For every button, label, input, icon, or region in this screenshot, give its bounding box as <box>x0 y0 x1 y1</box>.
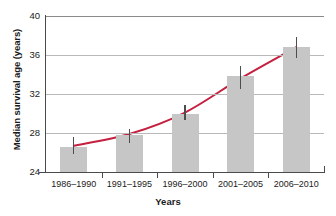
x-tick-label: 1996–2000 <box>154 179 216 189</box>
x-tick-mark <box>102 172 103 178</box>
y-tick-label-24: 24 <box>14 166 40 177</box>
x-tick-mark <box>213 172 214 178</box>
chart-container: Median survival age (years) 2428323640 Y… <box>0 0 336 216</box>
x-axis-left-cap <box>39 172 46 173</box>
x-axis-right-cap <box>324 166 325 173</box>
y-tick-label-28: 28 <box>14 127 40 138</box>
error-bar <box>73 137 74 155</box>
y-tick-label-40: 40 <box>14 10 40 21</box>
x-tick-label: 2001–2005 <box>210 179 272 189</box>
error-bar <box>129 129 130 143</box>
error-bar <box>240 66 241 89</box>
x-tick-label: 2006–2010 <box>265 179 327 189</box>
x-tick-mark <box>157 172 158 178</box>
y-tick-label-36: 36 <box>14 49 40 60</box>
x-tick-mark <box>268 172 269 178</box>
error-bar <box>184 105 185 121</box>
x-axis-title: Years <box>0 196 336 207</box>
bar <box>283 47 310 172</box>
x-tick-label: 1986–1990 <box>43 179 105 189</box>
bar <box>172 114 199 173</box>
x-tick-label: 1991–1995 <box>98 179 160 189</box>
x-axis-line <box>45 172 325 173</box>
y-tick-label-32: 32 <box>14 88 40 99</box>
error-bar <box>296 37 297 57</box>
gridline-40 <box>46 16 324 17</box>
bar <box>227 76 254 172</box>
plot-area <box>46 16 324 172</box>
